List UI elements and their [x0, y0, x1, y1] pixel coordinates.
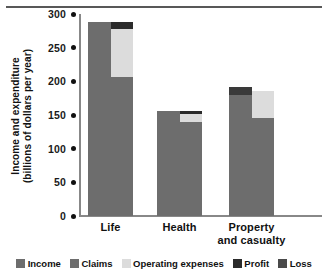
- y-axis-tick: 200: [48, 75, 79, 87]
- bar-segment-claims[interactable]: [252, 118, 275, 216]
- chart-legend: IncomeClaimsOperating expensesProfitLoss: [0, 255, 328, 271]
- legend-label: Income: [28, 258, 61, 269]
- y-axis-tick: 150: [48, 109, 79, 121]
- x-axis-label: Propertyand casualty: [204, 221, 300, 246]
- y-axis: 300250200150100500: [38, 0, 79, 278]
- legend-swatch: [233, 259, 242, 268]
- y-axis-tick-label: 50: [54, 176, 66, 188]
- legend-item[interactable]: Profit: [233, 258, 269, 269]
- legend-item[interactable]: Operating expenses: [122, 258, 224, 269]
- legend-label: Operating expenses: [133, 258, 224, 269]
- legend-label: Loss: [290, 258, 312, 269]
- plot-area: [79, 14, 322, 216]
- y-axis-tick-label: 250: [48, 42, 66, 54]
- y-axis-tick: 100: [48, 143, 79, 155]
- legend-label: Profit: [244, 258, 269, 269]
- y-axis-tick-marker: [71, 113, 76, 118]
- x-axis-label-line-1: Property: [204, 221, 300, 234]
- y-axis-tick-marker: [71, 79, 76, 84]
- chart-container: Income and expenditure (billions of doll…: [0, 0, 328, 278]
- y-axis-tick: 50: [54, 176, 79, 188]
- bar-segment-operating-expenses[interactable]: [180, 114, 203, 122]
- y-axis-title-line-2: (billions of dollars per year): [22, 36, 34, 196]
- bar-group[interactable]: [157, 14, 202, 216]
- y-axis-tick-marker: [71, 214, 76, 219]
- bar-segment-income[interactable]: [229, 95, 252, 216]
- legend-item[interactable]: Loss: [278, 258, 312, 269]
- bar-segment-claims[interactable]: [180, 122, 203, 216]
- y-axis-tick-label: 100: [48, 143, 66, 155]
- y-axis-tick-marker: [71, 12, 76, 17]
- legend-swatch: [278, 259, 287, 268]
- y-axis-tick-marker: [71, 45, 76, 50]
- y-axis-tick: 250: [48, 42, 79, 54]
- x-axis-label-line-2: and casualty: [204, 234, 300, 247]
- legend-swatch: [122, 259, 131, 268]
- legend-item[interactable]: Claims: [70, 258, 113, 269]
- y-axis-title-line-1: Income and expenditure: [10, 36, 22, 196]
- y-axis-tick-label: 200: [48, 75, 66, 87]
- y-axis-tick-label: 150: [48, 109, 66, 121]
- bar-segment-profit[interactable]: [111, 22, 134, 29]
- y-axis-tick-marker: [71, 180, 76, 185]
- bar-segment-income[interactable]: [88, 22, 111, 216]
- bar-segment-claims[interactable]: [111, 77, 134, 216]
- bar-segment-profit[interactable]: [180, 111, 203, 114]
- y-axis-tick-marker: [71, 146, 76, 151]
- bar-segment-income[interactable]: [157, 111, 180, 216]
- bar-group[interactable]: [88, 14, 133, 216]
- bar-segment-loss[interactable]: [229, 87, 252, 95]
- y-axis-tick-label: 300: [48, 8, 66, 20]
- y-axis-tick: 300: [48, 8, 79, 20]
- bar-group[interactable]: [229, 14, 274, 216]
- legend-swatch: [70, 259, 79, 268]
- bar-segment-operating-expenses[interactable]: [252, 91, 275, 118]
- y-axis-title: Income and expenditure (billions of doll…: [10, 36, 34, 196]
- bar-segment-operating-expenses[interactable]: [111, 29, 134, 77]
- legend-swatch: [16, 259, 25, 268]
- legend-item[interactable]: Income: [16, 258, 61, 269]
- legend-label: Claims: [81, 258, 112, 269]
